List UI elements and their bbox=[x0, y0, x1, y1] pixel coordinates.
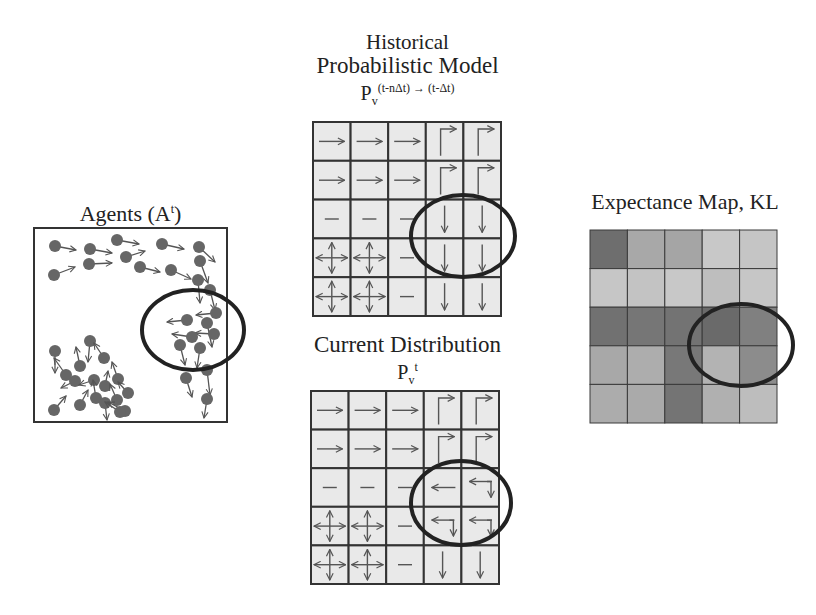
grid-cell-right bbox=[388, 161, 426, 200]
current-grid bbox=[311, 391, 499, 584]
grid-cell-right bbox=[311, 391, 349, 430]
grid-cell-down bbox=[426, 238, 464, 277]
grid-cell-corner-down-right bbox=[463, 122, 501, 161]
historical-grid bbox=[313, 122, 501, 316]
grid-cell-none bbox=[388, 200, 426, 239]
grid-cell-right bbox=[351, 161, 389, 200]
grid-cell-down bbox=[463, 238, 501, 277]
grid-cell-right bbox=[388, 122, 426, 161]
grid-cell-right bbox=[386, 430, 424, 469]
kl-cell bbox=[627, 307, 664, 346]
kl-cell bbox=[590, 269, 627, 308]
grid-cell-down bbox=[461, 545, 499, 584]
grid-cell-right bbox=[351, 122, 389, 161]
grid-cell-down bbox=[426, 277, 464, 316]
grid-cell-right bbox=[349, 391, 387, 430]
grid-cell-all bbox=[349, 507, 387, 546]
grid-cell-right bbox=[311, 430, 349, 469]
grid-cell-none bbox=[349, 468, 387, 507]
grid-cell-left bbox=[424, 468, 462, 507]
kl-cell bbox=[627, 269, 664, 308]
grid-cell-all bbox=[349, 545, 387, 584]
grid-cell-left-down bbox=[424, 507, 462, 546]
grid-cell-none bbox=[351, 200, 389, 239]
grid-cell-all bbox=[313, 238, 351, 277]
kl-cell bbox=[702, 230, 739, 269]
grid-cell-corner-down-right bbox=[424, 391, 462, 430]
grid-cell-all bbox=[313, 277, 351, 316]
grid-cell-none bbox=[386, 468, 424, 507]
kl-cell bbox=[590, 384, 627, 423]
kl-cell bbox=[702, 269, 739, 308]
grid-cell-none bbox=[386, 545, 424, 584]
kl-cell bbox=[590, 307, 627, 346]
kl-cell bbox=[702, 384, 739, 423]
grid-cell-left-down bbox=[461, 468, 499, 507]
grid-cell-down bbox=[424, 545, 462, 584]
kl-cell bbox=[590, 346, 627, 385]
kl-cell bbox=[627, 230, 664, 269]
grid-cell-all bbox=[311, 545, 349, 584]
grid-cell-none bbox=[313, 200, 351, 239]
grid-cell-right bbox=[313, 122, 351, 161]
expectance-map-grid bbox=[590, 230, 777, 423]
kl-cell bbox=[590, 230, 627, 269]
kl-cell bbox=[740, 384, 777, 423]
grid-cell-corner-down-right bbox=[461, 391, 499, 430]
grid-cell-right bbox=[349, 430, 387, 469]
grid-cell-none bbox=[311, 468, 349, 507]
grid-cell-left-down bbox=[461, 507, 499, 546]
agents-panel bbox=[34, 228, 244, 422]
kl-cell bbox=[627, 346, 664, 385]
kl-cell bbox=[665, 230, 702, 269]
grid-cell-down bbox=[463, 277, 501, 316]
grid-cell-right bbox=[386, 391, 424, 430]
kl-cell bbox=[740, 230, 777, 269]
kl-cell bbox=[740, 269, 777, 308]
grid-cell-corner-down-right bbox=[426, 122, 464, 161]
kl-cell bbox=[627, 384, 664, 423]
grid-cell-all bbox=[311, 507, 349, 546]
grid-cell-none bbox=[388, 277, 426, 316]
grid-cell-all bbox=[351, 238, 389, 277]
kl-cell bbox=[665, 269, 702, 308]
kl-cell bbox=[665, 384, 702, 423]
grid-cell-all bbox=[351, 277, 389, 316]
grid-cell-right bbox=[313, 161, 351, 200]
diagram-canvas bbox=[0, 0, 816, 615]
